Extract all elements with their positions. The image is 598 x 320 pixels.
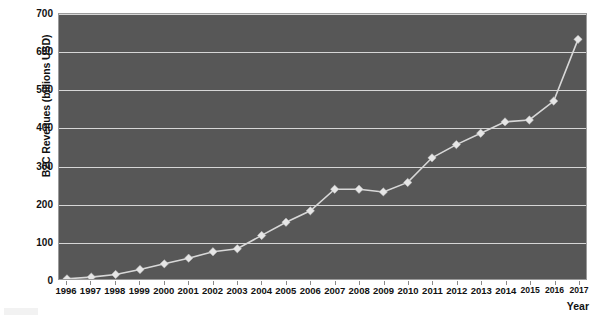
data-point-marker — [501, 118, 509, 126]
data-point-marker — [184, 254, 192, 262]
data-point-marker — [282, 218, 290, 226]
data-point-marker — [452, 140, 460, 148]
series-line — [67, 39, 578, 278]
y-axis-tick-label: 400 — [13, 122, 53, 133]
data-point-marker — [233, 245, 241, 253]
chart-figure: B2C Revenues (billions USD) 010020030040… — [0, 0, 598, 320]
data-point-marker — [136, 265, 144, 273]
data-point-marker — [257, 231, 265, 239]
data-point-marker — [574, 35, 582, 43]
y-axis-tick-label: 200 — [13, 198, 53, 209]
y-axis-tick-label: 0 — [13, 275, 53, 286]
data-point-marker — [63, 275, 71, 279]
data-point-marker — [160, 260, 168, 268]
data-point-marker — [477, 129, 485, 137]
data-point-marker — [379, 188, 387, 196]
data-series — [59, 14, 586, 279]
data-point-marker — [209, 248, 217, 256]
x-axis-tick-label: 2017 — [559, 285, 598, 295]
y-axis-tick-label: 500 — [13, 84, 53, 95]
y-axis-title: B2C Revenues (billions USD) — [40, 0, 52, 216]
y-axis-tick-label: 300 — [13, 160, 53, 171]
plot-area — [58, 13, 587, 280]
data-point-marker — [355, 185, 363, 193]
series-markers — [63, 35, 582, 279]
data-point-marker — [87, 273, 95, 279]
y-axis-tick-label: 700 — [13, 8, 53, 19]
y-axis-tick-label: 600 — [13, 46, 53, 57]
x-axis-title: Year — [567, 300, 589, 312]
data-point-marker — [111, 270, 119, 278]
y-axis-tick-label: 100 — [13, 236, 53, 247]
scan-artifact — [4, 308, 38, 315]
